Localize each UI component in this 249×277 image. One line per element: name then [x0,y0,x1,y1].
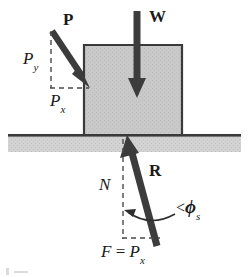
label-py-subscript: y [33,61,38,73]
ground-top-line [8,134,241,137]
label-py-base: P [23,49,33,68]
label-friction-equation: F = Px [101,243,145,263]
label-friction-F: F [101,242,111,261]
label-resultant-R: R [149,162,161,179]
block-body [84,45,182,134]
label-friction-angle: <ϕs [176,197,200,219]
label-normal-force-N: N [99,176,110,193]
block-fill [84,45,182,134]
label-px-component: Px [50,92,65,112]
label-py-component: Py [23,50,38,70]
diagram-canvas [0,0,249,277]
physics-free-body-diagram: P W Py Px N R <ϕs F = Px [0,0,249,277]
label-px-subscript: x [60,103,65,115]
label-angle-phi: ϕ [185,196,196,217]
label-friction-P: P [129,242,139,261]
label-friction-equals: = [116,242,126,261]
label-px-base: P [50,91,60,110]
label-weight-W: W [149,8,166,25]
label-angle-less-than: < [176,199,185,216]
caption-remnant [6,268,28,275]
label-angle-subscript: s [196,210,200,222]
label-applied-force-P: P [63,11,73,28]
label-friction-P-subscript: x [140,254,145,266]
